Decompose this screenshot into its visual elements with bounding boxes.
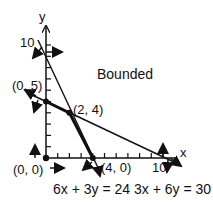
vertex-0-5 (43, 99, 49, 105)
point-label-4-0: (4, 0) (101, 161, 131, 174)
y-tick-10-label: 10 (20, 36, 34, 49)
point-label-0-5: (0, 5) (12, 79, 42, 92)
point-label-0-0: (0, 0) (13, 163, 43, 176)
equation-line2: 3x + 6y = 30 (134, 182, 211, 196)
x-tick-10-label: 10 (152, 161, 166, 174)
vertex-2-4 (66, 110, 72, 116)
y-axis-label: y (39, 10, 46, 23)
x-axis-label: x (180, 146, 187, 159)
equation-line1: 6x + 3y = 24 (53, 182, 130, 196)
point-label-2-4: (2, 4) (73, 103, 103, 116)
vertex-4-0 (90, 155, 96, 161)
region-label: Bounded (97, 67, 153, 81)
vertex-0-0 (43, 155, 49, 161)
